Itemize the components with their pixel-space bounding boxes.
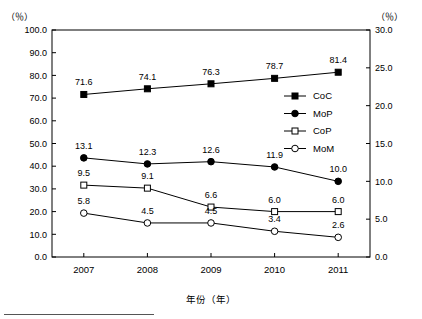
data-point-mom-2010 xyxy=(271,228,278,235)
data-label-mop-2009: 12.6 xyxy=(202,145,220,155)
data-label-mom-2009: 4.5 xyxy=(205,206,218,216)
y-left-tick-label: 20.0 xyxy=(29,207,47,217)
data-label-mom-2007: 5.8 xyxy=(78,196,91,206)
data-label-mop-2010: 11.9 xyxy=(266,150,283,160)
data-label-cop-2009: 6.6 xyxy=(205,190,218,200)
data-label-coc-2007: 71.6 xyxy=(75,77,93,87)
y-left-tick-label: 0.0 xyxy=(34,252,47,262)
data-label-cop-2011: 6.0 xyxy=(332,195,345,205)
data-label-coc-2009: 76.3 xyxy=(202,67,220,77)
data-label-mom-2008: 4.5 xyxy=(141,206,154,216)
y-left-tick-label: 60.0 xyxy=(29,116,47,126)
x-tick-label: 2010 xyxy=(264,264,285,275)
data-point-mom-2008 xyxy=(144,220,151,227)
legend-label-mom: MoM xyxy=(313,143,334,154)
data-point-mop-2008 xyxy=(144,161,151,168)
legend-marker-mom xyxy=(292,145,299,152)
y-left-axis-title: （％） xyxy=(6,12,33,22)
data-point-mop-2009 xyxy=(208,158,215,165)
y-right-tick-label: 20.0 xyxy=(375,101,393,111)
x-tick-label: 2009 xyxy=(200,264,221,275)
y-left-tick-label: 70.0 xyxy=(29,93,47,103)
legend-marker-coc xyxy=(292,93,298,99)
x-tick-label: 2007 xyxy=(73,264,94,275)
legend-label-mop: MoP xyxy=(313,108,333,119)
y-right-tick-label: 10.0 xyxy=(375,177,393,187)
data-label-coc-2011: 81.4 xyxy=(329,55,347,65)
y-right-tick-label: 30.0 xyxy=(375,25,393,35)
data-point-coc-2008 xyxy=(144,86,150,92)
data-point-mom-2007 xyxy=(81,210,88,217)
legend-label-cop: CoP xyxy=(313,125,331,136)
data-point-cop-2011 xyxy=(335,209,341,215)
data-point-mop-2011 xyxy=(335,178,342,185)
data-point-mom-2009 xyxy=(208,220,215,227)
y-right-tick-label: 5.0 xyxy=(375,214,388,224)
y-left-tick-label: 90.0 xyxy=(29,48,47,58)
data-label-coc-2008: 74.1 xyxy=(139,72,157,82)
y-left-tick-label: 50.0 xyxy=(29,139,47,149)
y-left-tick-label: 10.0 xyxy=(29,230,47,240)
y-right-tick-label: 25.0 xyxy=(375,63,393,73)
y-left-tick-label: 100.0 xyxy=(24,25,47,35)
data-label-mop-2011: 10.0 xyxy=(329,164,347,174)
chart-container: 0.010.020.030.040.050.060.070.080.090.01… xyxy=(0,0,422,319)
data-label-cop-2007: 9.5 xyxy=(78,168,91,178)
data-label-cop-2010: 6.0 xyxy=(268,195,281,205)
data-label-coc-2010: 78.7 xyxy=(266,61,284,71)
data-point-cop-2007 xyxy=(81,182,87,188)
y-left-tick-label: 40.0 xyxy=(29,161,47,171)
x-tick-label: 2011 xyxy=(328,264,348,275)
y-left-tick-label: 30.0 xyxy=(29,184,47,194)
y-right-tick-label: 15.0 xyxy=(375,139,393,149)
footer-divider xyxy=(4,314,154,315)
x-tick-label: 2008 xyxy=(137,264,158,275)
data-label-mop-2007: 13.1 xyxy=(75,141,93,151)
data-point-mom-2011 xyxy=(335,234,342,241)
line-chart: 0.010.020.030.040.050.060.070.080.090.01… xyxy=(0,0,422,319)
legend-marker-cop xyxy=(292,128,298,134)
data-point-coc-2011 xyxy=(335,69,341,75)
data-point-mop-2010 xyxy=(271,164,278,171)
y-right-axis-title: （％） xyxy=(376,12,403,22)
data-point-coc-2007 xyxy=(81,91,87,97)
data-point-coc-2010 xyxy=(272,75,278,81)
data-point-mop-2007 xyxy=(81,155,88,162)
y-right-tick-label: 0.0 xyxy=(375,252,388,262)
legend-label-coc: CoC xyxy=(313,90,332,101)
y-left-tick-label: 80.0 xyxy=(29,71,47,81)
data-point-coc-2009 xyxy=(208,81,214,87)
data-label-cop-2008: 9.1 xyxy=(141,171,154,181)
legend-marker-mop xyxy=(292,110,299,117)
x-axis-title: 年份（年） xyxy=(186,294,236,305)
data-label-mom-2010: 3.4 xyxy=(268,214,281,224)
data-label-mom-2011: 2.6 xyxy=(332,220,345,230)
data-label-mop-2008: 12.3 xyxy=(139,147,157,157)
data-point-cop-2008 xyxy=(144,185,150,191)
